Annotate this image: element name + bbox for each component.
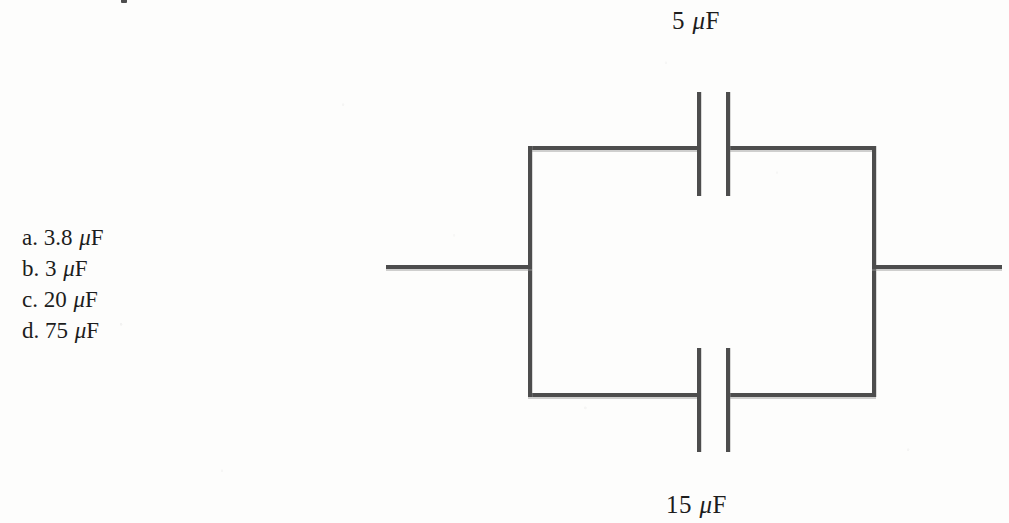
capacitor-bottom-plate-right [726, 348, 730, 452]
capacitor-top-plate-left [697, 92, 701, 196]
capacitor-bottom-plate-left [697, 348, 701, 452]
wire-left-node [528, 146, 532, 397]
capacitor-top-gap [701, 142, 726, 154]
terminal-lead-right [872, 265, 1002, 269]
wire-right-node [872, 146, 876, 397]
capacitor-bottom-gap [701, 389, 726, 401]
terminal-lead-left [386, 265, 532, 269]
scanned-page: 5 μF 15 μF a. 3.8 μF b. 3 μF c. 20 μF d.… [0, 0, 1009, 523]
circuit-diagram [0, 0, 1009, 523]
capacitor-top-plate-right [726, 92, 730, 196]
